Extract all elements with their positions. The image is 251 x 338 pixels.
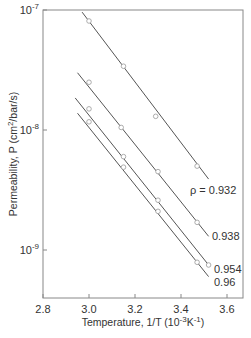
data-point-marker — [206, 263, 211, 268]
data-point-marker — [119, 125, 124, 130]
x-tick-label: 3.2 — [127, 303, 142, 315]
data-point-marker — [195, 260, 200, 265]
x-tick-label: 3.0 — [81, 303, 96, 315]
data-point-marker — [87, 120, 92, 125]
x-tick-label: 2.8 — [35, 303, 50, 315]
fit-line — [82, 12, 209, 179]
data-point-marker — [87, 107, 92, 112]
x-tick-label: 3.4 — [173, 303, 188, 315]
data-point-marker — [195, 164, 200, 169]
fit-line — [78, 73, 209, 237]
series-label: ρ = 0.932 — [190, 184, 236, 196]
data-point-marker — [87, 80, 92, 85]
y-tick-labels: 10-710-810-9 — [20, 2, 40, 256]
data-markers — [87, 19, 211, 268]
series-label: 0.96 — [214, 276, 235, 288]
x-tick-label: 3.6 — [219, 303, 234, 315]
axis-ticks — [43, 10, 227, 298]
data-point-marker — [87, 19, 92, 24]
y-tick-label: 10-8 — [20, 122, 40, 136]
series-labels: ρ = 0.9320.9380.9540.96 — [190, 184, 242, 288]
data-point-marker — [121, 64, 126, 69]
series-label: 0.954 — [214, 263, 242, 275]
x-axis-title: Temperature, 1/T (10-3K-1) — [82, 315, 205, 328]
fit-lines — [75, 12, 208, 276]
data-point-marker — [121, 154, 126, 159]
y-tick-label: 10-7 — [20, 2, 40, 16]
fit-line — [75, 98, 208, 265]
permeability-chart: 10-710-810-9 2.83.03.23.43.6 ρ = 0.9320.… — [0, 0, 251, 338]
data-point-marker — [156, 169, 161, 174]
fit-line — [78, 113, 209, 276]
x-tick-labels: 2.83.03.23.43.6 — [35, 303, 234, 315]
y-tick-label: 10-9 — [20, 242, 40, 256]
data-point-marker — [121, 165, 126, 170]
data-point-marker — [153, 114, 158, 119]
data-point-marker — [195, 220, 200, 225]
series-label: 0.938 — [212, 230, 240, 242]
y-axis-title: Permeability, P (cm2/bar/s) — [6, 92, 19, 216]
data-point-marker — [156, 209, 161, 214]
data-point-marker — [156, 198, 161, 203]
